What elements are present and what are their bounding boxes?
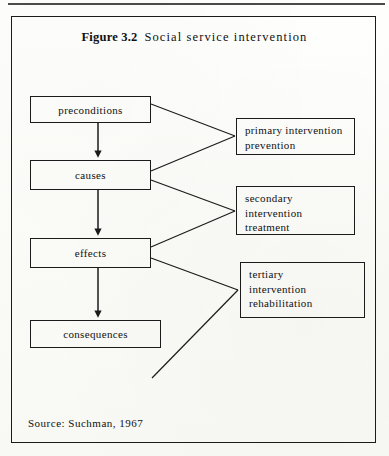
node-primary-line1: primary intervention — [245, 123, 354, 138]
node-secondary-line1: secondary — [245, 191, 354, 206]
node-consequences-label: consequences — [63, 328, 128, 340]
node-consequences[interactable]: consequences — [30, 320, 161, 348]
node-primary-line2: prevention — [245, 138, 354, 153]
node-preconditions-label: preconditions — [58, 104, 122, 116]
node-secondary-line3: treatment — [245, 220, 354, 235]
node-causes[interactable]: causes — [30, 160, 151, 190]
source-note: Source: Suchman, 1967 — [28, 417, 143, 429]
figure-caption: Social service intervention — [144, 30, 307, 44]
figure-number: Figure 3.2 — [82, 30, 138, 44]
node-causes-label: causes — [75, 169, 106, 181]
node-primary-intervention[interactable]: primary intervention prevention — [236, 118, 355, 155]
figure-title: Figure 3.2Social service intervention — [0, 30, 389, 45]
node-tertiary-line3: rehabilitation — [249, 296, 364, 311]
node-tertiary-line1: tertiary — [249, 267, 364, 282]
node-preconditions[interactable]: preconditions — [30, 96, 151, 123]
node-tertiary-line2: intervention — [249, 282, 364, 297]
node-effects[interactable]: effects — [30, 238, 151, 268]
node-secondary-line2: intervention — [245, 206, 354, 221]
node-tertiary-intervention[interactable]: tertiary intervention rehabilitation — [240, 262, 365, 318]
node-effects-label: effects — [75, 247, 107, 259]
node-secondary-intervention[interactable]: secondary intervention treatment — [236, 186, 355, 235]
figure-page: Figure 3.2Social service intervention — [0, 0, 389, 456]
top-horizontal-rule — [8, 3, 385, 5]
